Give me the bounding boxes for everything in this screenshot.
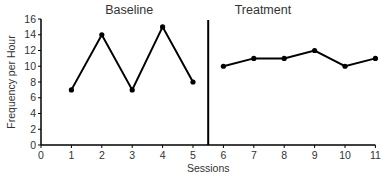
data-point — [190, 79, 195, 84]
y-tick-label: 2 — [30, 123, 36, 135]
y-tick-label: 8 — [30, 76, 36, 88]
data-point — [312, 48, 317, 53]
data-point — [221, 64, 226, 69]
y-tick-label: 4 — [30, 107, 36, 119]
y-tick-label: 10 — [24, 60, 36, 72]
data-point — [160, 24, 165, 29]
x-tick-label: 9 — [312, 149, 318, 161]
data-point — [251, 56, 256, 61]
x-tick-label: 11 — [370, 149, 381, 161]
single-case-line-chart: 024681012141601234567891011 BaselineTrea… — [0, 0, 387, 179]
series-line — [71, 27, 193, 90]
y-axis-label: Frequency per Hour — [5, 35, 17, 129]
data-point — [282, 56, 287, 61]
series-baseline — [69, 24, 196, 92]
data-series — [69, 24, 378, 92]
x-tick-label: 2 — [99, 149, 105, 161]
y-tick-label: 16 — [24, 13, 36, 25]
y-tick-label: 6 — [30, 91, 36, 103]
x-tick-label: 10 — [339, 149, 351, 161]
x-tick-label: 7 — [251, 149, 257, 161]
x-tick-label: 6 — [220, 149, 226, 161]
y-tick-label: 14 — [24, 28, 36, 40]
y-tick-label: 0 — [30, 139, 36, 151]
x-axis-label: Sessions — [187, 162, 230, 174]
phase-label-treatment: Treatment — [235, 3, 292, 17]
y-tick-label: 12 — [24, 44, 36, 56]
data-point — [130, 87, 135, 92]
data-point — [99, 32, 104, 37]
data-point — [342, 64, 347, 69]
data-point — [69, 87, 74, 92]
x-tick-label: 8 — [281, 149, 287, 161]
phase-label-baseline: Baseline — [105, 3, 153, 17]
series-line — [223, 51, 375, 67]
x-tick-label: 4 — [160, 149, 166, 161]
x-tick-label: 5 — [190, 149, 196, 161]
axes: 024681012141601234567891011 — [24, 13, 381, 162]
series-treatment — [221, 48, 378, 69]
x-tick-label: 3 — [129, 149, 135, 161]
data-point — [373, 56, 378, 61]
chart-labels: BaselineTreatmentSessionsFrequency per H… — [5, 3, 292, 174]
x-tick-label: 0 — [38, 149, 44, 161]
x-tick-label: 1 — [68, 149, 74, 161]
